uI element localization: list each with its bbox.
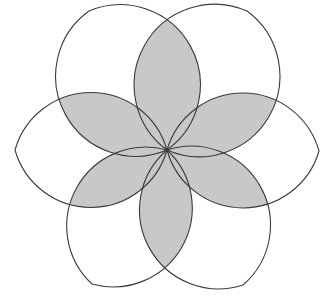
rosette-svg [0, 0, 334, 300]
lens-rosette-diagram [0, 0, 334, 300]
